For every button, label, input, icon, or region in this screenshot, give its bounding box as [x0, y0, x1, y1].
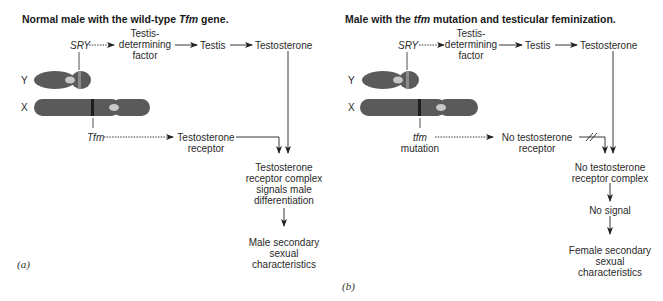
panel-b-label: (b)	[342, 280, 355, 292]
testis-label-b: Testis	[525, 40, 551, 51]
x-label-b: X	[348, 102, 355, 113]
tfm-mutation-b: tfmmutation	[400, 132, 440, 154]
y-label-b: Y	[348, 75, 355, 86]
tdf-label-b: Testis-determiningfactor	[441, 28, 501, 61]
sry-gene-b: SRY	[398, 40, 418, 51]
testosterone-label-b: Testosterone	[580, 40, 637, 51]
y-chromosome-b	[362, 71, 419, 89]
x-chromosome-b	[360, 99, 478, 116]
signal-label-b: No signal	[565, 205, 655, 216]
receptor-label-b: No testosteronereceptor	[494, 132, 580, 154]
outcome-label-b: Female secondarysexualcharacteristics	[565, 245, 655, 278]
complex-label-b: No testosteronereceptor complex	[565, 162, 655, 184]
